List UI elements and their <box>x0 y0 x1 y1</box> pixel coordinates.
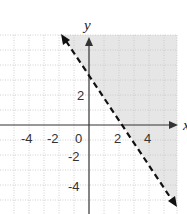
y-tick: 2 <box>77 88 84 103</box>
y-axis-label: y <box>82 17 91 33</box>
x-tick: -2 <box>47 131 59 146</box>
x-axis-label: x <box>182 117 187 133</box>
x-tick: 0 <box>75 131 82 146</box>
x-tick: 2 <box>114 131 121 146</box>
x-tick: 4 <box>144 131 151 146</box>
y-tick: -2 <box>68 149 80 164</box>
x-tick: -4 <box>21 131 33 146</box>
y-tick: -4 <box>68 179 80 194</box>
inequality-graph: x y -4 -2 0 2 4 2 -2 -4 <box>0 0 187 214</box>
